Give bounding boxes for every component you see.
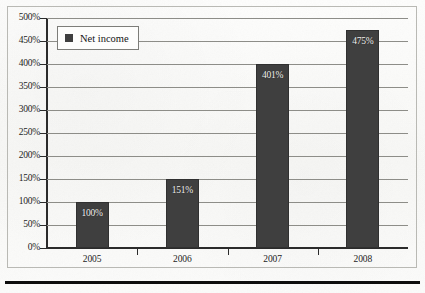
y-axis-tick xyxy=(40,202,46,203)
y-axis-tick-label: 250% xyxy=(2,127,40,137)
y-axis-tick xyxy=(40,110,46,111)
y-axis-tick-labels: 0%50%100%150%200%250%300%350%400%450%500… xyxy=(0,0,40,293)
y-axis-tick xyxy=(40,248,46,249)
bar-2005: 100% xyxy=(76,202,109,248)
y-axis-tick-label: 50% xyxy=(2,219,40,229)
bar-value-label-2006: 151% xyxy=(166,185,199,195)
y-axis-tick-label: 350% xyxy=(2,81,40,91)
y-axis-tick xyxy=(40,133,46,134)
y-axis-tick-label: 300% xyxy=(2,104,40,114)
x-axis-label-2008: 2008 xyxy=(333,254,393,264)
y-axis-tick xyxy=(40,64,46,65)
legend-label-net-income: Net income xyxy=(80,33,129,44)
chart-legend: Net income xyxy=(57,26,139,50)
y-axis-tick-label: 0% xyxy=(2,242,40,252)
legend-swatch-net-income xyxy=(65,34,73,42)
bar-value-label-2005: 100% xyxy=(76,208,109,218)
gridline xyxy=(47,18,408,19)
y-axis-tick-label: 150% xyxy=(2,173,40,183)
bar-value-label-2007: 401% xyxy=(256,70,289,80)
y-axis-tick xyxy=(40,156,46,157)
x-axis-tick xyxy=(228,249,229,255)
bar-2008: 475% xyxy=(346,30,379,249)
plot-area: 100%151%401%475% xyxy=(47,18,408,248)
x-axis-label-2006: 2006 xyxy=(152,254,212,264)
y-axis-tick-label: 100% xyxy=(2,196,40,206)
y-axis-tick-label: 200% xyxy=(2,150,40,160)
y-axis-tick xyxy=(40,225,46,226)
y-axis-tick-label: 400% xyxy=(2,58,40,68)
bar-value-label-2008: 475% xyxy=(346,36,379,46)
x-axis-label-2007: 2007 xyxy=(243,254,303,264)
x-axis-tick xyxy=(318,249,319,255)
y-axis-tick xyxy=(40,41,46,42)
y-axis-tick-label: 450% xyxy=(2,35,40,45)
bar-2006: 151% xyxy=(166,179,199,248)
y-axis-tick-label: 500% xyxy=(2,12,40,22)
y-axis-tick xyxy=(40,18,46,19)
y-axis-tick xyxy=(40,87,46,88)
x-axis-tick xyxy=(137,249,138,255)
bottom-horizontal-rule xyxy=(5,281,420,284)
y-axis-tick xyxy=(40,179,46,180)
x-axis-label-2005: 2005 xyxy=(62,254,122,264)
bar-2007: 401% xyxy=(256,64,289,248)
